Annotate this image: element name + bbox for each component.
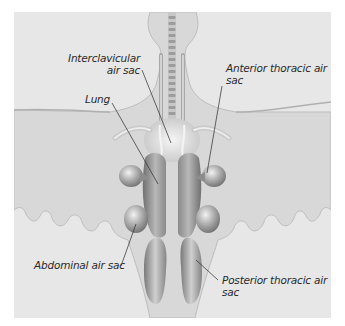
label-anterior-thoracic-air-sac: Anterior thoracic air sac [226,62,327,86]
label-line: Abdominal air sac [34,259,125,271]
label-lung: Lung [85,93,110,105]
label-interclavicular-air-sac: Interclavicular air sac [62,52,140,76]
label-line: air sac [62,64,140,76]
label-line: sac [226,74,327,86]
label-line: Posterior thoracic air [222,274,327,286]
label-line: Anterior thoracic air [226,62,327,74]
label-line: sac [222,286,327,298]
label-abdominal-air-sac: Abdominal air sac [34,259,125,271]
label-line: Interclavicular [62,52,140,64]
label-posterior-thoracic-air-sac: Posterior thoracic air sac [222,274,327,298]
label-line: Lung [85,93,110,105]
